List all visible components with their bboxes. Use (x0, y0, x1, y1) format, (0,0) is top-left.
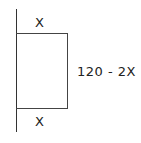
top-side-label: X (35, 16, 44, 29)
rectangle-enclosure (16, 33, 68, 109)
right-side-label: 120 - 2X (77, 65, 136, 78)
bottom-side-label: X (35, 115, 44, 128)
